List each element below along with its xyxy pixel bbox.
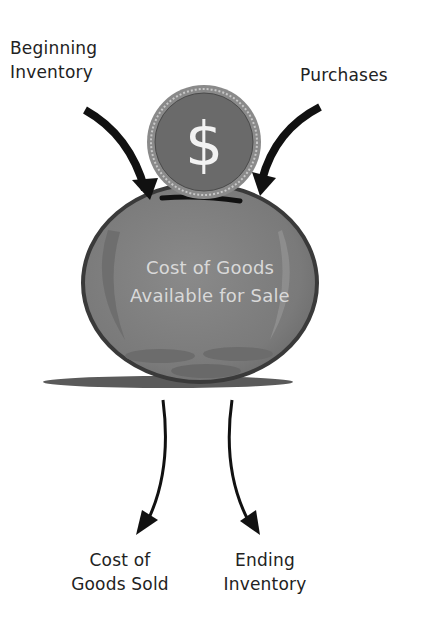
- coin-inside: [171, 364, 241, 378]
- label-ending-inventory: Ending Inventory: [200, 548, 330, 596]
- arrow-beginning-inventory: [85, 110, 145, 190]
- arrowhead: [136, 510, 158, 535]
- label-line: Goods Sold: [50, 572, 190, 596]
- dollar-coin-icon: $: [147, 85, 261, 199]
- label-line: Beginning: [10, 36, 110, 60]
- arrowhead: [252, 172, 276, 196]
- label-line: Cost of: [50, 548, 190, 572]
- label-line: Available for Sale: [95, 282, 325, 310]
- label-purchases: Purchases: [300, 63, 400, 87]
- arrowhead: [240, 510, 260, 535]
- svg-text:$: $: [185, 109, 223, 179]
- label-line: Inventory: [200, 572, 330, 596]
- coin-inside: [203, 347, 273, 361]
- label-cost-of-goods-available: Cost of Goods Available for Sale: [95, 254, 325, 310]
- coin-inside: [125, 349, 195, 363]
- label-beginning-inventory: Beginning Inventory: [10, 36, 110, 84]
- arrow-cost-of-goods-sold: [148, 400, 165, 520]
- arrow-purchases: [262, 107, 320, 180]
- label-cost-of-goods-sold: Cost of Goods Sold: [50, 548, 190, 596]
- label-line: Cost of Goods: [95, 254, 325, 282]
- arrow-ending-inventory: [229, 400, 248, 520]
- label-line: Inventory: [10, 60, 110, 84]
- label-line: Purchases: [300, 63, 400, 87]
- diagram-art: $: [0, 0, 438, 628]
- label-line: Ending: [200, 548, 330, 572]
